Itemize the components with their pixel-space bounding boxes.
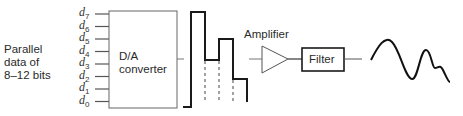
analog-output-wave — [371, 40, 450, 82]
converter-label-line2: converter — [119, 63, 167, 76]
amplifier-triangle — [262, 46, 288, 73]
input-label-line1: Parallel — [4, 43, 51, 56]
staircase-waveform — [183, 12, 247, 107]
converter-label-line1: D/A — [119, 50, 167, 63]
converter-label: D/A converter — [119, 50, 167, 76]
bit-lines — [95, 14, 109, 102]
amplifier-label: Amplifier — [244, 28, 289, 41]
diagram-canvas — [0, 0, 463, 116]
filter-label: Filter — [309, 53, 335, 66]
input-label-line2: data of — [4, 56, 51, 69]
input-label: Parallel data of 8–12 bits — [4, 43, 51, 82]
sample-dashes — [205, 61, 233, 102]
bit-label-d0: d0 — [79, 93, 89, 109]
input-label-line3: 8–12 bits — [4, 69, 51, 82]
